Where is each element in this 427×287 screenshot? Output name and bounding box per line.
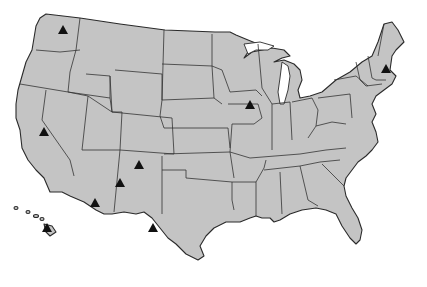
triangle-marker-icon[interactable] [134,160,144,169]
triangle-marker-icon[interactable] [381,64,391,73]
triangle-marker-icon[interactable] [42,223,52,232]
triangle-marker-icon[interactable] [245,100,255,109]
triangle-marker-icon[interactable] [115,178,125,187]
us-map [0,0,427,287]
triangle-marker-icon[interactable] [148,223,158,232]
triangle-marker-icon[interactable] [39,127,49,136]
triangle-marker-icon[interactable] [58,25,68,34]
triangle-marker-icon[interactable] [90,198,100,207]
